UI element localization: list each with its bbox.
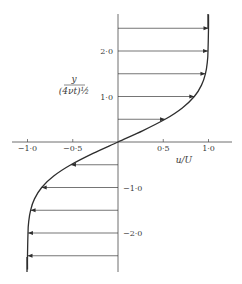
x-tick-label: 1·0	[202, 144, 215, 153]
y-tick-label: 1·0	[100, 93, 113, 102]
x-tick-label: −0·5	[63, 144, 82, 153]
x-tick-label: −1·0	[18, 144, 37, 153]
velocity-profile-diagram: −1·0−0·50·51·0 2·01·0−1·0−2·0 y (4νt)½ u…	[0, 0, 242, 284]
x-axis-ticks: −1·0−0·50·51·0	[18, 139, 215, 153]
y-axis-label-denominator: (4νt)½	[59, 86, 90, 96]
y-tick-label: −2·0	[123, 229, 142, 238]
y-axis-label: y (4νt)½	[59, 74, 90, 96]
y-axis-label-numerator: y	[70, 74, 77, 84]
y-tick-label: −1·0	[123, 184, 142, 193]
y-tick-label: 2·0	[100, 47, 113, 56]
x-axis-label: u/U	[176, 155, 193, 165]
x-tick-label: 0·5	[157, 144, 170, 153]
y-axis-ticks: 2·01·0−1·0−2·0	[100, 47, 142, 238]
